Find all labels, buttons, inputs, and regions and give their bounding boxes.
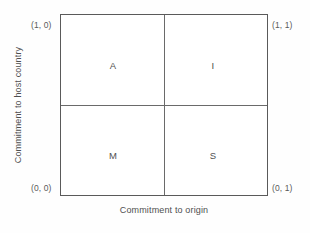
quadrant-label-integration: I xyxy=(212,60,215,71)
corner-label-bottom-left: (0, 0) xyxy=(31,183,51,193)
corner-label-top-right: (1, 1) xyxy=(272,20,292,30)
quadrant-figure: (1, 0) (1, 1) (0, 0) (0, 1) A I M S Comm… xyxy=(0,0,310,233)
quadrant-label-marginalization: M xyxy=(109,150,117,161)
horizontal-divider-line xyxy=(61,105,267,106)
x-axis-title: Commitment to origin xyxy=(60,205,268,215)
quadrant-label-assimilation: A xyxy=(110,60,117,71)
y-axis-title: Commitment to host country xyxy=(13,14,27,196)
quadrant-plot-box: A I M S xyxy=(60,14,268,196)
corner-label-bottom-right: (0, 1) xyxy=(272,183,292,193)
corner-label-top-left: (1, 0) xyxy=(31,20,51,30)
quadrant-label-separation: S xyxy=(210,150,217,161)
